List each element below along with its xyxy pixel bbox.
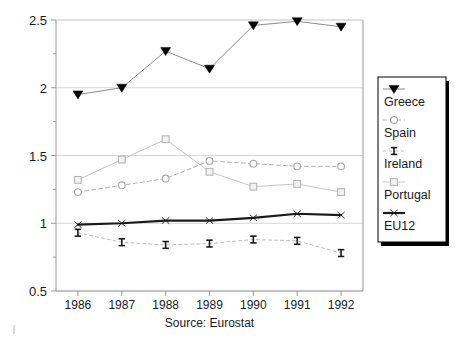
- x-tick-label-4: 1990: [240, 298, 267, 312]
- x-axis-ticks: 1986198719881989199019911992: [65, 291, 355, 312]
- chart-figure: 0.511.522.51986198719881989199019911992S…: [0, 0, 455, 339]
- series-portugal-marker-3: [206, 168, 213, 175]
- series-greece-marker-3: [205, 65, 215, 73]
- series-portugal-marker-5: [294, 181, 301, 188]
- series-portugal-marker-0: [75, 176, 82, 183]
- series-spain-marker-5: [294, 163, 301, 170]
- legend-label-eu12: EU12: [384, 219, 415, 233]
- legend-label-greece: Greece: [384, 95, 425, 109]
- series-portugal-marker-4: [250, 183, 257, 190]
- y-tick-label-1: 1: [40, 216, 47, 231]
- x-tick-label-2: 1988: [152, 298, 179, 312]
- y-tick-label-2: 1.5: [29, 149, 47, 164]
- series-spain-marker-3: [206, 158, 213, 165]
- legend: GreeceSpainIrelandPortugalEU12: [378, 77, 449, 246]
- series-spain-marker-6: [338, 163, 345, 170]
- legend-label-ireland: Ireland: [384, 157, 422, 171]
- series-spain-marker-2: [162, 175, 169, 182]
- series-portugal-marker-1: [118, 156, 125, 163]
- series-eu12: [74, 211, 344, 228]
- series-greece: [73, 18, 346, 99]
- series-spain-marker-0: [75, 189, 82, 196]
- series-greece-marker-6: [336, 23, 346, 31]
- legend-label-portugal: Portugal: [384, 188, 431, 202]
- source-caption: Source: Eurostat: [165, 316, 255, 330]
- legend-label-spain: Spain: [384, 126, 416, 140]
- series-portugal-marker-6: [338, 189, 345, 196]
- y-tick-label-0: 0.5: [29, 284, 47, 299]
- x-tick-label-6: 1992: [328, 298, 355, 312]
- legend-spain-marker-0: [391, 117, 398, 124]
- series-spain-marker-4: [250, 160, 257, 167]
- series-line-portugal: [78, 139, 341, 192]
- y-axis-ticks: 0.511.522.5: [29, 13, 56, 299]
- legend-portugal-marker-0: [391, 179, 398, 186]
- scan-artifact: [13, 325, 15, 334]
- x-tick-label-1: 1987: [108, 298, 135, 312]
- series-ireland-marker-6: [338, 250, 344, 257]
- series-spain-marker-1: [118, 182, 125, 189]
- y-tick-label-4: 2.5: [29, 13, 47, 28]
- x-tick-label-5: 1991: [284, 298, 311, 312]
- x-tick-label-3: 1989: [196, 298, 223, 312]
- series-line-greece: [78, 21, 341, 94]
- series-line-spain: [78, 161, 341, 192]
- series-portugal-marker-2: [162, 136, 169, 143]
- grid-lines: [56, 20, 363, 291]
- y-tick-label-3: 2: [40, 81, 47, 96]
- line-chart: 0.511.522.51986198719881989199019911992S…: [0, 0, 455, 339]
- series-ireland: [75, 229, 345, 256]
- x-tick-label-0: 1986: [65, 298, 92, 312]
- series-greece-marker-0: [73, 91, 83, 99]
